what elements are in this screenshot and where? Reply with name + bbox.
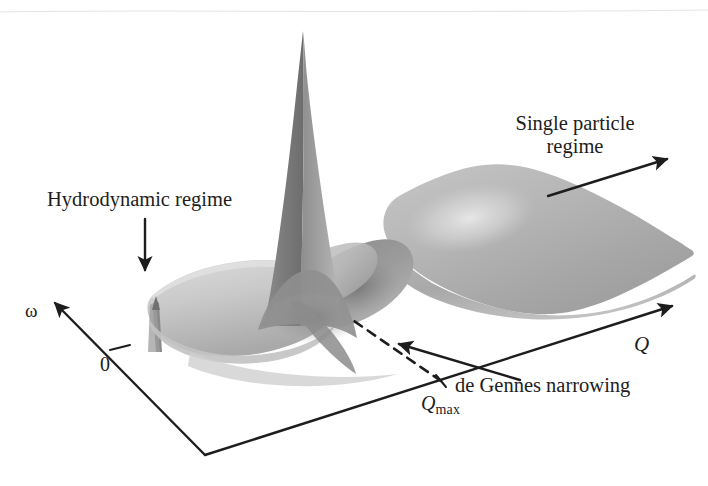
q-axis-label: Q — [634, 333, 649, 357]
origin-tick — [110, 345, 130, 350]
dynamic-structure-factor-figure — [0, 0, 708, 486]
single-particle-regime-label: Single particle regime — [500, 112, 650, 158]
qmax-symbol: Q — [421, 392, 435, 414]
origin-label: 0 — [100, 353, 110, 375]
scan-artifact — [0, 10, 708, 12]
single-particle-arrow — [548, 159, 667, 196]
qmax-dashed-leader — [354, 321, 441, 381]
qmax-tick-label: Qmax — [421, 392, 460, 418]
hydrodynamic-regime-label: Hydrodynamic regime — [47, 188, 232, 211]
qmax-subscript: max — [435, 402, 460, 417]
single-particle-regime-line2: regime — [500, 135, 650, 158]
omega-axis-label: ω — [25, 300, 38, 321]
single-particle-regime-line1: Single particle — [500, 112, 650, 135]
de-gennes-narrowing-label: de Gennes narrowing — [455, 374, 630, 397]
